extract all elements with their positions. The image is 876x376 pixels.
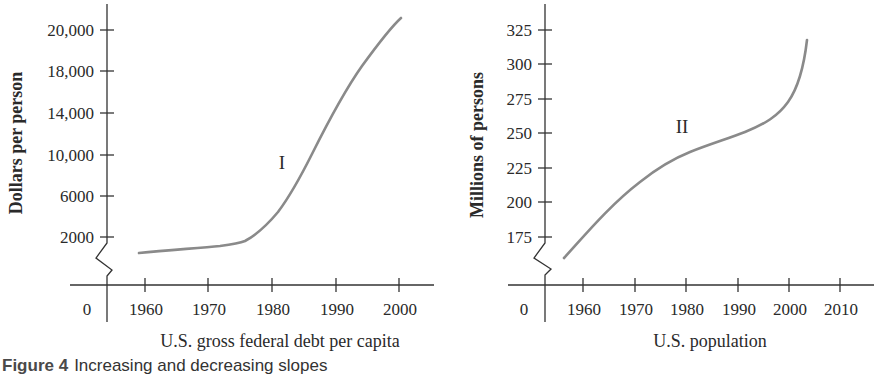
y-tick-labels: 325 300 275 250 225 200 175	[507, 21, 533, 247]
x-tick-labels: 0 1960 1970 1980 1990 2000	[83, 300, 417, 319]
y-axis-title: Dollars per person	[6, 72, 26, 215]
x-tick-label: 2000	[773, 300, 807, 319]
x-axis-title: U.S. population	[653, 331, 767, 351]
origin-label: 0	[83, 300, 92, 319]
figure-number: Figure 4	[2, 356, 68, 375]
x-tick-label: 1970	[619, 300, 653, 319]
curve-population	[564, 40, 807, 258]
y-tick-label: 275	[507, 90, 533, 109]
x-tick-label: 2010	[824, 300, 858, 319]
y-axis	[96, 4, 112, 322]
y-tick-label: 200	[507, 193, 533, 212]
x-tick-label: 1960	[567, 300, 601, 319]
y-tick-label: 20,000	[47, 21, 94, 40]
curve-debt	[139, 18, 401, 253]
y-axis-title: Millions of persons	[467, 72, 487, 218]
y-tick-label: 175	[507, 228, 533, 247]
x-axis-title: U.S. gross federal debt per capita	[160, 331, 399, 351]
x-tick-labels: 0 1960 1970 1980 1990 2000 2010	[520, 300, 858, 319]
curve-label-II: II	[676, 116, 689, 137]
caption-text: Increasing and decreasing slopes	[74, 356, 327, 375]
y-tick-label: 6000	[60, 187, 94, 206]
y-tick-label: 14,000	[47, 104, 94, 123]
figure-caption: Figure 4Increasing and decreasing slopes	[2, 356, 327, 376]
x-tick-label: 1970	[192, 300, 226, 319]
chart-debt-per-capita: 20,000 18,000 14,000 10,000 6000 2000 0 …	[6, 4, 434, 351]
y-tick-label: 10,000	[47, 146, 94, 165]
x-tick-label: 1980	[670, 300, 704, 319]
x-tick-label: 1990	[722, 300, 756, 319]
y-axis	[534, 4, 551, 322]
x-tick-label: 1960	[129, 300, 163, 319]
y-tick-label: 250	[507, 124, 533, 143]
origin-label: 0	[520, 300, 529, 319]
y-tick-label: 300	[507, 55, 533, 74]
y-tick-label: 18,000	[47, 62, 94, 81]
x-tick-label: 2000	[383, 300, 417, 319]
y-tick-label: 2000	[60, 228, 94, 247]
y-tick-labels: 20,000 18,000 14,000 10,000 6000 2000	[47, 21, 94, 247]
x-tick-label: 1980	[256, 300, 290, 319]
y-tick-label: 225	[507, 159, 533, 178]
chart-population: 325 300 275 250 225 200 175 0 1960 1970 …	[467, 4, 874, 351]
x-tick-label: 1990	[320, 300, 354, 319]
curve-label-I: I	[279, 152, 285, 173]
y-tick-label: 325	[507, 21, 533, 40]
